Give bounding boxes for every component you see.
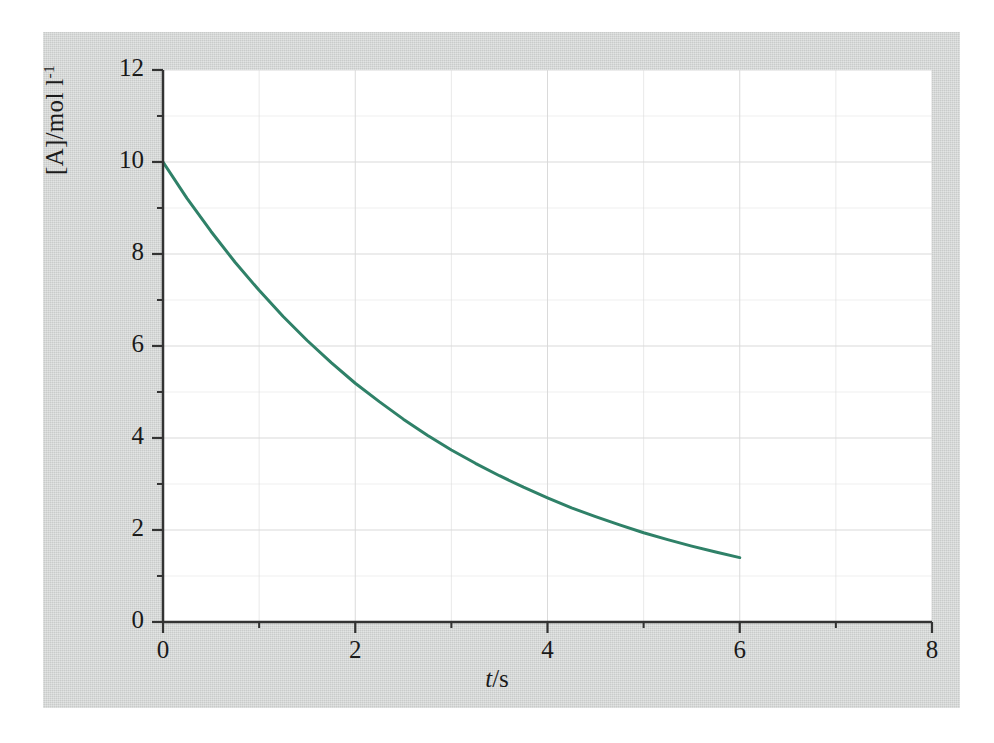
figure-root: 024681012 02468 [A]/mol l-1 t/s: [0, 0, 994, 743]
y-tick-label: 8: [92, 238, 144, 266]
y-tick-label: 0: [92, 606, 144, 634]
axis-lines: [163, 70, 932, 622]
y-axis-title: [A]/mol l-1: [40, 0, 69, 250]
x-axis-title: t/s: [0, 665, 994, 693]
x-axis-title-unit: s: [499, 665, 509, 692]
x-tick-label: 0: [143, 636, 183, 664]
y-tick-label: 2: [92, 514, 144, 542]
y-tick-label: 10: [92, 146, 144, 174]
x-tick-label: 8: [912, 636, 952, 664]
y-tick-label: 4: [92, 422, 144, 450]
axes-svg: [0, 0, 994, 743]
tick-marks: [152, 70, 932, 633]
y-tick-label: 12: [92, 54, 144, 82]
x-tick-label: 4: [528, 636, 568, 664]
y-axis-title-base: [A]/mol l: [41, 79, 68, 175]
x-tick-label: 6: [720, 636, 760, 664]
x-tick-label: 2: [335, 636, 375, 664]
y-tick-label: 6: [92, 330, 144, 358]
y-axis-title-exponent: -1: [40, 65, 57, 79]
